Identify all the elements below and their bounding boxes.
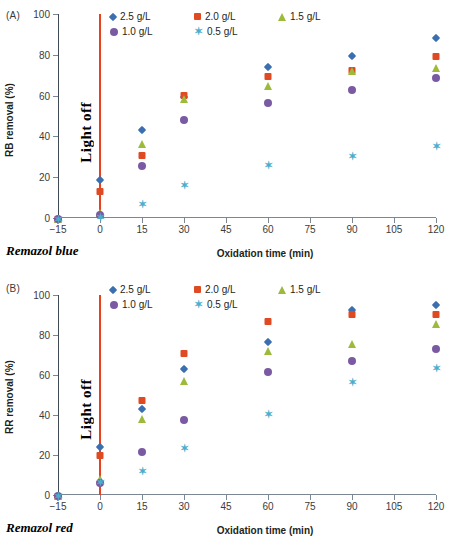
data-point <box>265 311 272 329</box>
x-tick <box>394 495 395 500</box>
data-point: ✶ <box>96 207 105 225</box>
circle-marker-icon <box>348 357 356 365</box>
star-marker-icon: ✶ <box>54 215 63 224</box>
data-point: ✶ <box>96 472 105 490</box>
data-point <box>180 371 188 389</box>
star-marker-icon: ✶ <box>138 200 147 209</box>
data-point: ✶ <box>54 209 63 227</box>
legend-item-s20[interactable]: 2.0 g/L <box>194 285 278 295</box>
legend-item-s25[interactable]: 2.5 g/L <box>110 285 194 295</box>
panel-a-tag: (A) <box>6 10 20 21</box>
panel-b-dye-name: Remazol red <box>6 520 73 536</box>
diamond-marker-icon <box>348 52 356 60</box>
data-point <box>264 362 272 380</box>
data-point <box>348 351 356 369</box>
panel-a-plot-area: Light off 020406080100−15015304560759010… <box>58 14 436 218</box>
data-point <box>180 410 188 428</box>
data-point <box>432 68 440 86</box>
y-tick-label: 20 <box>24 450 50 461</box>
circle-marker-icon <box>138 162 146 170</box>
y-tick <box>53 295 58 296</box>
triangle-marker-icon <box>264 82 272 90</box>
x-tick-label: 105 <box>379 224 409 235</box>
x-tick <box>226 218 227 223</box>
y-tick-label: 0 <box>24 490 50 501</box>
x-tick <box>184 218 185 223</box>
x-tick <box>100 495 101 500</box>
x-tick-label: 60 <box>253 224 283 235</box>
data-point: ✶ <box>54 486 63 504</box>
panel-b-y-axis-title: RR removal (%) <box>4 337 18 457</box>
panel-b-x-axis-title: Oxidation time (min) <box>180 525 350 536</box>
panel-b-x-axis <box>58 494 436 495</box>
x-tick-label: 30 <box>169 501 199 512</box>
y-tick-label: 80 <box>24 330 50 341</box>
y-tick-label: 80 <box>24 49 50 60</box>
y-tick <box>53 136 58 137</box>
legend-item-s15[interactable]: 1.5 g/L <box>278 285 362 295</box>
triangle-marker-icon <box>180 95 188 103</box>
x-tick-label: 90 <box>337 501 367 512</box>
circle-marker-icon <box>432 345 440 353</box>
x-tick <box>184 495 185 500</box>
data-point <box>433 27 439 45</box>
y-tick-label: 20 <box>24 172 50 183</box>
y-tick <box>53 415 58 416</box>
y-tick <box>53 14 58 15</box>
diamond-marker-icon <box>432 34 440 42</box>
triangle-marker-icon <box>138 140 146 148</box>
x-tick-label: 105 <box>379 501 409 512</box>
panel-b: (B) 2.5 g/L2.0 g/L1.5 g/L1.0 g/L✶0.5 g/L… <box>0 275 457 551</box>
square-marker-icon <box>139 397 146 404</box>
star-marker-icon: ✶ <box>264 410 273 419</box>
panel-a-dye-name: Remazol blue <box>6 243 79 259</box>
data-point <box>181 343 188 361</box>
data-point: ✶ <box>264 404 273 422</box>
data-point <box>180 110 188 128</box>
x-tick <box>268 218 269 223</box>
panel-a-light-off-label: Light off <box>78 102 95 163</box>
x-tick <box>394 218 395 223</box>
panel-a-y-axis-title: RB removal (%) <box>4 60 18 180</box>
circle-marker-icon <box>180 416 188 424</box>
data-point <box>349 304 356 322</box>
legend-label: 1.5 g/L <box>290 285 321 295</box>
circle-marker-icon <box>264 99 272 107</box>
data-point: ✶ <box>180 175 189 193</box>
y-tick-label: 100 <box>24 290 50 301</box>
x-tick-label: 75 <box>295 501 325 512</box>
square-marker-icon <box>194 286 201 293</box>
panel-a-x-axis-title: Oxidation time (min) <box>180 248 350 259</box>
circle-marker-icon <box>138 448 146 456</box>
data-point: ✶ <box>138 461 147 479</box>
data-point: ✶ <box>348 146 357 164</box>
data-point <box>348 334 356 352</box>
triangle-marker-icon <box>180 377 188 385</box>
square-marker-icon <box>97 188 104 195</box>
data-point <box>138 134 146 152</box>
x-tick <box>268 495 269 500</box>
x-tick <box>352 495 353 500</box>
triangle-marker-icon <box>432 320 440 328</box>
x-tick-label: 0 <box>85 224 115 235</box>
square-marker-icon <box>349 311 356 318</box>
data-point <box>264 341 272 359</box>
star-marker-icon: ✶ <box>432 364 441 373</box>
y-tick-label: 60 <box>24 90 50 101</box>
y-tick <box>53 177 58 178</box>
star-marker-icon: ✶ <box>348 152 357 161</box>
star-marker-icon: ✶ <box>96 213 105 222</box>
data-point <box>348 61 356 79</box>
x-tick <box>436 218 437 223</box>
data-point: ✶ <box>180 438 189 456</box>
y-tick-label: 40 <box>24 410 50 421</box>
data-point <box>180 89 188 107</box>
data-point <box>138 409 146 427</box>
x-tick <box>436 495 437 500</box>
square-marker-icon <box>265 318 272 325</box>
data-point <box>264 76 272 94</box>
data-point: ✶ <box>348 372 357 390</box>
circle-marker-icon <box>264 368 272 376</box>
y-tick <box>53 375 58 376</box>
x-tick <box>310 218 311 223</box>
